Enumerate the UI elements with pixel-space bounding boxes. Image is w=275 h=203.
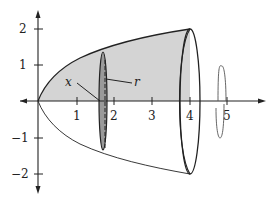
solid-of-revolution-diagram: 1 2 3 4 5 2 1 −1 −2 x r [0,0,275,203]
shaded-region [38,29,190,101]
x-tick-label-4: 4 [186,109,194,123]
x-tick-label-1: 1 [73,109,81,123]
y-tick-label-2: 2 [19,22,27,36]
x-tick-label-2: 2 [110,109,118,123]
x-label: x [65,75,72,89]
rotation-arrow-icon [216,66,226,138]
y-tick-label-1: 1 [19,58,27,72]
y-tick-label-neg1: −1 [11,131,29,145]
y-axis-arrow-up-icon [36,10,41,18]
y-tick-label-neg2: −2 [11,167,29,181]
x-axis-arrow-left-icon [20,99,27,104]
y-axis-arrow-down-icon [36,186,41,194]
x-tick-label-3: 3 [148,109,156,123]
x-axis-arrow-right-icon [258,99,266,104]
